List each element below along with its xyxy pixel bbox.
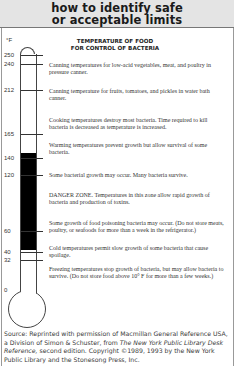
tick-label: 140 [4, 155, 18, 161]
tick-line [21, 252, 43, 253]
temperature-description: Some bacterial growth may occur. Many ba… [49, 172, 227, 179]
temperature-unit-label: °F [6, 37, 12, 43]
tick-label: 240 [4, 61, 18, 67]
tick-label: 40 [4, 249, 18, 255]
header-title-line2: or acceptable limits [0, 13, 234, 27]
temperature-description: Canning temperature for fruits, tomatoes… [49, 88, 227, 102]
temperature-description: Cooking temperatures destroy most bacter… [49, 117, 227, 131]
temperature-description: DANGER ZONE. Temperatures in this zone a… [49, 192, 227, 206]
tick-label: 212 [4, 87, 18, 93]
tick-line [21, 55, 43, 56]
tick-label: 32 [4, 257, 18, 263]
tick-label: 250 [4, 52, 18, 58]
temperature-description: Canning temperatures for low-acid vegeta… [49, 62, 227, 76]
tick-line [21, 158, 43, 159]
tick-label: 60 [4, 228, 18, 234]
temperature-description: Freezing temperatures stop growth of bac… [49, 266, 227, 280]
header-banner: how to identify safe or acceptable limit… [0, 0, 234, 28]
tick-line [21, 175, 43, 176]
temperature-description: Warming temperatures prevent growth but … [49, 142, 227, 156]
tick-line [21, 231, 43, 232]
temperature-description: Some growth of food poisoning bacteria m… [49, 220, 227, 234]
tick-line [21, 134, 43, 135]
thermometer-bulb [8, 290, 46, 328]
chart-title-line2: FOR CONTROL OF BACTERIA [40, 45, 190, 51]
tick-label: 165 [4, 131, 18, 137]
tick-line [21, 64, 43, 65]
source-citation: Source: Reprinted with permission of Mac… [4, 330, 232, 364]
tick-label: 0 [4, 287, 18, 293]
danger-zone-mercury [21, 153, 36, 250]
temperature-description: Cold temperatures permit slow growth of … [49, 245, 227, 259]
tick-label: 120 [4, 172, 18, 178]
thermometer-neck [21, 286, 36, 294]
chart-title-line1: TEMPERATURE OF FOOD [40, 38, 190, 44]
tick-line [21, 260, 43, 261]
tick-line [21, 90, 43, 91]
